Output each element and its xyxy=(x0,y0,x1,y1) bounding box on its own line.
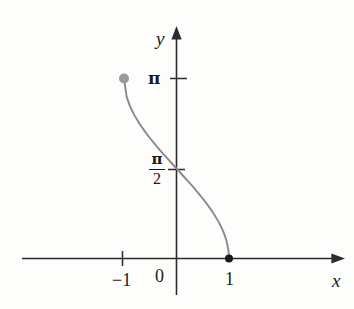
y-axis-label: y xyxy=(156,29,164,48)
x-axis-label: x xyxy=(332,271,340,290)
y-tick-label-pi-over-two: π 2 xyxy=(146,152,168,188)
curve-left-endpoint-dot xyxy=(119,74,129,84)
plot-canvas xyxy=(0,0,354,309)
fraction-numerator: π xyxy=(146,152,168,168)
x-tick-label-one: 1 xyxy=(225,270,234,288)
origin-label: 0 xyxy=(155,267,164,285)
y-tick-label-pi: π xyxy=(148,70,160,87)
fraction-denominator: 2 xyxy=(146,171,168,188)
x-tick-label-neg-one: −1 xyxy=(112,271,131,289)
curve-right-endpoint-dot xyxy=(225,255,233,263)
arccos-graph-figure: y x π π 2 −1 0 1 xyxy=(0,0,354,309)
